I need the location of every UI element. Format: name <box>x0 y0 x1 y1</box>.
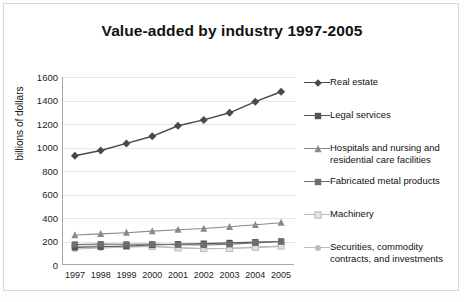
data-point <box>97 146 105 154</box>
legend-marker-icon <box>304 209 330 220</box>
data-point <box>278 219 285 226</box>
y-tick-label: 1400 <box>24 96 58 105</box>
legend-item[interactable]: Fabricated metal products <box>304 175 440 187</box>
data-point <box>278 238 284 244</box>
plot-area <box>62 77 294 265</box>
chart-page: Value-added by industry 1997-2005 billio… <box>0 0 464 302</box>
y-tick-label: 200 <box>24 237 58 246</box>
legend-label: Machinery <box>330 208 374 220</box>
legend-item[interactable]: Legal services <box>304 109 391 121</box>
legend-marker-icon <box>304 77 330 88</box>
x-axis-ticks: 199719981999200020012002200320042005 <box>62 270 294 284</box>
chart-title: Value-added by industry 1997-2005 <box>0 22 464 40</box>
series-hospitals-and-nursing-and-residential-care-facilities <box>71 219 284 238</box>
y-tick-label: 1200 <box>24 120 58 129</box>
legend-item[interactable]: Machinery <box>304 208 374 220</box>
data-point <box>277 88 285 96</box>
legend-label: Fabricated metal products <box>330 175 440 187</box>
legend-marker-icon <box>304 110 330 121</box>
data-point <box>98 241 104 247</box>
data-point <box>252 240 258 246</box>
data-point <box>149 241 155 247</box>
series-real-estate <box>71 88 285 160</box>
data-point <box>122 139 130 147</box>
data-point <box>251 98 259 106</box>
y-tick-label: 1000 <box>24 143 58 152</box>
series-layer <box>62 77 294 265</box>
y-tick-label: 800 <box>24 167 58 176</box>
legend-label: Hospitals and nursing and residential ca… <box>330 142 440 165</box>
data-point <box>71 152 79 160</box>
legend-item[interactable]: Real estate <box>304 76 378 88</box>
legend-label: Real estate <box>330 76 378 88</box>
data-point <box>174 122 182 130</box>
data-point <box>175 242 181 248</box>
data-point <box>226 241 232 247</box>
data-point <box>148 132 156 140</box>
y-tick-label: 0 <box>24 261 58 270</box>
data-point <box>226 109 234 117</box>
legend-label: Legal services <box>330 109 391 121</box>
legend-marker-icon <box>304 176 330 187</box>
y-tick-label: 1600 <box>24 73 58 82</box>
legend-item[interactable]: Hospitals and nursing and residential ca… <box>304 142 440 165</box>
legend-item[interactable]: Securities, commodity contracts, and inv… <box>304 241 443 264</box>
legend-label: Securities, commodity contracts, and inv… <box>330 241 443 264</box>
legend-marker-icon <box>304 143 330 154</box>
y-tick-label: 400 <box>24 214 58 223</box>
data-point <box>201 242 207 248</box>
data-point <box>200 116 208 124</box>
data-point <box>72 241 78 247</box>
data-point <box>123 241 129 247</box>
y-axis-ticks: 16001400120010008006004002000 <box>18 77 58 265</box>
y-tick-label: 600 <box>24 190 58 199</box>
x-tick-label: 2005 <box>264 270 298 280</box>
legend-marker-icon <box>304 242 330 253</box>
